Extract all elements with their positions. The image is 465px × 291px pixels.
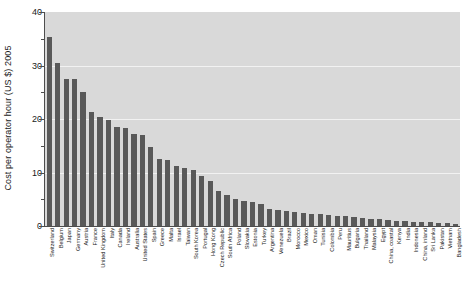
- x-label-slot: Vietnam: [443, 228, 451, 291]
- bar-slot: [231, 12, 239, 226]
- bar-slot: [164, 12, 172, 226]
- bar-slot: [214, 12, 222, 226]
- bar-slot: [409, 12, 417, 226]
- bar: [335, 216, 340, 226]
- bar: [224, 195, 229, 226]
- bar-slot: [155, 12, 163, 226]
- x-label-slot: Portugal: [197, 228, 205, 291]
- y-tick-mark-minor: [41, 39, 44, 40]
- bar-slot: [197, 12, 205, 226]
- bar-slot: [79, 12, 87, 226]
- plot-area: [45, 12, 460, 226]
- bar: [174, 166, 179, 226]
- bar: [97, 117, 102, 226]
- bar-slot: [206, 12, 214, 226]
- bar: [233, 199, 238, 226]
- y-tick-mark-major: [39, 119, 44, 120]
- x-label-slot: Peru: [333, 228, 341, 291]
- x-label-slot: Israel: [172, 228, 180, 291]
- y-tick-mark-minor: [41, 199, 44, 200]
- bar-slot: [401, 12, 409, 226]
- bar: [394, 221, 399, 226]
- x-label-slot: Slovakia: [240, 228, 248, 291]
- bar: [182, 168, 187, 226]
- x-label-slot: Australia: [130, 228, 138, 291]
- x-label-slot: Indonesia: [409, 228, 417, 291]
- x-axis-labels: SwitzerlandBelgiumJapanGermanyAustriaFra…: [45, 228, 460, 291]
- bar-slot: [240, 12, 248, 226]
- x-label-slot: Bangladesh: [452, 228, 460, 291]
- bar: [241, 201, 246, 226]
- bar-slot: [70, 12, 78, 226]
- bar: [80, 92, 85, 226]
- y-axis-title: Cost per operator hour (US $) 2005: [3, 45, 13, 190]
- bar-slot: [308, 12, 316, 226]
- x-label-slot: Malta: [164, 228, 172, 291]
- bar: [411, 222, 416, 226]
- bar: [275, 210, 280, 226]
- bar: [72, 79, 77, 226]
- bar-slot: [426, 12, 434, 226]
- x-label-slot: United Kingdom: [96, 228, 104, 291]
- bar: [318, 214, 323, 226]
- y-tick-mark-minor: [41, 146, 44, 147]
- x-label-slot: South Korea: [189, 228, 197, 291]
- bar: [148, 147, 153, 226]
- bar: [216, 191, 221, 226]
- bar: [191, 170, 196, 226]
- bar: [55, 63, 60, 226]
- y-tick-mark-major: [39, 173, 44, 174]
- bar: [445, 223, 450, 226]
- x-tick-label: Bangladesh: [456, 228, 462, 258]
- x-label-slot: France: [87, 228, 95, 291]
- bar: [258, 204, 263, 226]
- bar: [199, 176, 204, 226]
- bar: [436, 223, 441, 226]
- bar-slot: [299, 12, 307, 226]
- x-label-slot: Malaysia: [367, 228, 375, 291]
- x-label-slot: Germany: [70, 228, 78, 291]
- bar-slot: [104, 12, 112, 226]
- bar: [428, 222, 433, 226]
- bar-slot: [333, 12, 341, 226]
- bar: [157, 159, 162, 226]
- x-label-slot: Greece: [155, 228, 163, 291]
- bar-slot: [350, 12, 358, 226]
- x-label-slot: Poland: [231, 228, 239, 291]
- chart-figure: Cost per operator hour (US $) 2005 01020…: [0, 0, 465, 291]
- bar-slot: [384, 12, 392, 226]
- bar: [360, 218, 365, 226]
- bar: [292, 212, 297, 226]
- bar-slot: [291, 12, 299, 226]
- x-label-slot: South Africa: [223, 228, 231, 291]
- bar-slot: [45, 12, 53, 226]
- bar-slot: [367, 12, 375, 226]
- x-label-slot: Japan: [62, 228, 70, 291]
- bar: [131, 134, 136, 226]
- x-label-slot: United States: [138, 228, 146, 291]
- x-label-slot: Kenya: [392, 228, 400, 291]
- bar-slot: [53, 12, 61, 226]
- bar-slot: [316, 12, 324, 226]
- bar-slot: [443, 12, 451, 226]
- x-label-slot: Czech Republic: [214, 228, 222, 291]
- x-label-slot: Oman: [308, 228, 316, 291]
- bar-slot: [341, 12, 349, 226]
- x-label-slot: Pakistan: [435, 228, 443, 291]
- bar: [377, 219, 382, 226]
- x-label-slot: Mexico: [299, 228, 307, 291]
- bar: [106, 120, 111, 226]
- bar-slot: [96, 12, 104, 226]
- x-label-slot: Venezuela: [274, 228, 282, 291]
- y-tick-mark-major: [39, 12, 44, 13]
- bar: [385, 220, 390, 226]
- bar: [402, 221, 407, 226]
- bar-slot: [358, 12, 366, 226]
- bar: [453, 224, 458, 226]
- bar: [89, 112, 94, 226]
- bar: [250, 202, 255, 226]
- bar: [301, 213, 306, 226]
- bar-slot: [172, 12, 180, 226]
- x-label-slot: Sri Lanka: [426, 228, 434, 291]
- bar: [208, 181, 213, 226]
